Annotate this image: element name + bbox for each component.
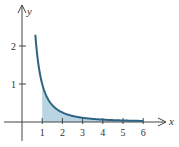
x-tick-label: 2 <box>60 127 65 138</box>
x-tick-label: 6 <box>141 127 146 138</box>
y-tick-label: 2 <box>11 41 16 52</box>
x-tick-label: 4 <box>100 127 105 138</box>
shaded-area <box>42 84 143 122</box>
y-tick-label: 1 <box>11 79 16 90</box>
y-axis-label: y <box>26 5 32 17</box>
x-tick-label: 5 <box>121 127 126 138</box>
x-tick-label: 3 <box>80 127 85 138</box>
y-ticks: 12 <box>11 41 26 90</box>
function-plot: x y 123456 12 <box>0 0 179 147</box>
x-axis-label: x <box>168 115 174 127</box>
x-tick-label: 1 <box>40 127 45 138</box>
